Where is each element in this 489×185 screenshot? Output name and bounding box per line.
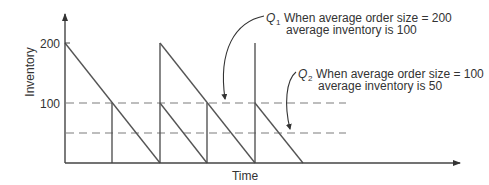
y-tick-200: 200 [40,37,60,51]
q1-subscript: 1 [276,18,281,27]
q2-annotation-arrow [287,72,296,129]
q2-line2: average inventory is 50 [318,79,442,93]
q2-subscript: 2 [308,74,313,83]
y-tick-100: 100 [40,97,60,111]
q1-letter: Q [266,11,275,25]
q1-annotation: Q 1 When average order size = 200 averag… [266,11,452,37]
x-axis-label: Time [232,169,259,183]
q2-letter: Q [298,67,307,81]
q1-line2: average inventory is 100 [286,23,417,37]
q1-annotation-arrow [223,16,264,99]
q2-annotation: Q 2 When average order size = 100 averag… [298,67,484,93]
y-axis-label: Inventory [23,47,37,96]
inventory-chart: 200 100 Inventory Time Q 1 When average … [0,0,489,185]
